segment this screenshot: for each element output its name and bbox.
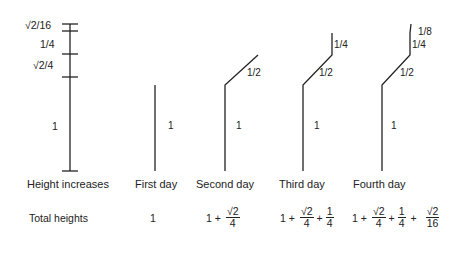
scale-label-sqrt2-4: √2/4 — [33, 59, 53, 71]
third-day-label-quarter: 1/4 — [334, 39, 348, 50]
numerator: √2 — [426, 206, 440, 217]
scale-label-sqrt2-16: √2/16 — [25, 19, 51, 31]
fraction: √2 16 — [426, 206, 440, 229]
third-day-label-half: 1/2 — [319, 67, 333, 78]
fourth-day-label-half: 1/2 — [400, 67, 414, 78]
fraction: √2 4 — [300, 206, 314, 229]
numerator: √2 — [372, 206, 386, 217]
total-heights-label: Total heights — [29, 212, 88, 224]
fourth-day-plant — [382, 24, 411, 171]
term: 1 — [352, 212, 358, 224]
total-first-day: 1 — [150, 212, 156, 224]
caption-second-day: Second day — [196, 178, 254, 190]
caption-third-day: Third day — [279, 178, 325, 190]
denominator: 4 — [304, 218, 310, 229]
plus-sign: + — [215, 212, 221, 224]
plus-sign: + — [411, 212, 417, 224]
second-day-label-half: 1/2 — [247, 67, 261, 78]
fraction: 1 4 — [326, 206, 334, 229]
denominator: 4 — [376, 218, 382, 229]
caption-first-day: First day — [135, 178, 177, 190]
numerator: √2 — [300, 206, 314, 217]
fraction: 1 4 — [398, 206, 406, 229]
total-fourth-day: 1 + √2 4 + 1 4 + √2 16 — [352, 206, 441, 229]
term: 1 — [280, 212, 286, 224]
denominator: 16 — [427, 218, 439, 229]
total-second-day: 1 + √2 4 — [206, 206, 242, 229]
fourth-day-label-quarter: 1/4 — [412, 39, 426, 50]
denominator: 4 — [230, 218, 236, 229]
fraction: √2 4 — [372, 206, 386, 229]
fourth-day-label-1: 1 — [391, 120, 397, 131]
scale-label-one: 1 — [52, 120, 58, 132]
plus-sign: + — [289, 212, 295, 224]
total-third-day: 1 + √2 4 + 1 4 — [280, 206, 336, 229]
third-day-label-1: 1 — [314, 120, 320, 131]
third-day-plant — [303, 33, 332, 171]
fraction: √2 4 — [226, 206, 240, 229]
scale-label-quarter: 1/4 — [40, 38, 55, 50]
caption-fourth-day: Fourth day — [353, 178, 406, 190]
numerator: 1 — [326, 206, 334, 217]
denominator: 4 — [327, 218, 333, 229]
plus-sign: + — [361, 212, 367, 224]
second-day-label-1: 1 — [236, 120, 242, 131]
first-day-label-1: 1 — [168, 120, 174, 131]
caption-height-increases: Height increases — [27, 178, 109, 190]
fourth-day-label-eighth: 1/8 — [418, 26, 432, 37]
plus-sign: + — [389, 212, 395, 224]
numerator: 1 — [398, 206, 406, 217]
term: 1 — [206, 212, 212, 224]
denominator: 4 — [399, 218, 405, 229]
plus-sign: + — [317, 212, 323, 224]
numerator: √2 — [226, 206, 240, 217]
